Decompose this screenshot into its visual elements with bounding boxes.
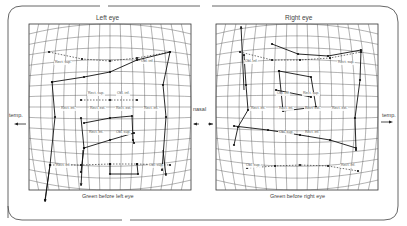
data-point <box>80 99 82 101</box>
data-point <box>355 149 357 151</box>
data-point <box>161 169 163 171</box>
muscle-label: Rect. ext. <box>331 107 348 111</box>
muscle-label: Obl. inf. <box>140 60 154 64</box>
muscle-label: Rect. inf. <box>340 164 356 168</box>
data-point <box>271 43 273 45</box>
data-point <box>136 163 138 165</box>
data-point <box>327 165 329 167</box>
data-point <box>360 49 362 51</box>
data-point <box>355 147 357 149</box>
data-point <box>299 134 301 136</box>
data-point <box>109 173 111 175</box>
data-point <box>329 139 331 141</box>
data-point <box>109 117 111 119</box>
data-point <box>48 51 50 53</box>
right-panel-title: Right eye <box>285 14 312 21</box>
muscle-label: Rect. sup. <box>87 92 105 96</box>
muscle-label: Rect. inf. <box>55 164 71 168</box>
data-point <box>81 58 83 60</box>
muscle-label: Obl. sup. <box>115 131 131 135</box>
muscle-label: Obl. sup. <box>278 131 294 135</box>
temporal-label-right: temp. <box>382 112 396 118</box>
data-point <box>297 53 299 55</box>
muscle-label: Rect. int. <box>60 107 76 111</box>
muscle-label: Rect. int. <box>88 131 104 135</box>
data-point <box>133 132 135 134</box>
muscle-label: Rect. ext. <box>115 107 132 111</box>
data-point <box>133 142 135 144</box>
arrow-icon <box>208 123 213 126</box>
data-point <box>327 55 329 57</box>
arrow-icon <box>14 123 26 126</box>
left-panel-title: Left eye <box>96 14 119 21</box>
data-point <box>80 117 82 119</box>
muscle-label: Rect. sup. <box>302 92 320 96</box>
hess-chart-figure: Left eye Right eye Green before left eye… <box>0 0 407 226</box>
data-point <box>247 109 249 111</box>
data-point <box>109 139 111 141</box>
plotted-field-line <box>52 52 170 170</box>
data-point <box>165 116 167 118</box>
arrow-icon <box>193 123 199 126</box>
data-point <box>357 170 359 172</box>
plotted-field-line <box>234 126 356 148</box>
data-point <box>239 51 241 53</box>
data-point <box>83 76 85 78</box>
data-point <box>169 164 171 166</box>
arrowhead-icon <box>240 26 243 29</box>
data-point <box>162 84 164 86</box>
data-point <box>109 163 111 165</box>
data-point <box>329 57 331 59</box>
muscle-label: Obl. inf. <box>116 92 130 96</box>
data-point <box>233 125 235 127</box>
plotted-field-line <box>84 133 134 148</box>
muscle-label: Rect. ext. <box>304 107 321 111</box>
left-panel-caption: Green before left eye <box>82 193 134 199</box>
data-point <box>109 99 111 101</box>
muscle-label: Obl. sup. <box>148 164 164 168</box>
data-point <box>109 71 111 73</box>
muscle-label: Rect. ext. <box>89 107 106 111</box>
data-point <box>136 59 138 61</box>
data-point <box>132 139 134 141</box>
data-point <box>131 115 133 117</box>
muscle-label: Rect. int. <box>143 107 159 111</box>
muscle-label: Rect. int. <box>278 107 294 111</box>
data-point <box>267 129 269 131</box>
data-point <box>274 165 276 167</box>
temporal-label-left: temp. <box>9 112 23 118</box>
muscle-label: Obl. inf. <box>276 92 290 96</box>
muscle-label: Obl. sup. <box>245 164 261 168</box>
data-point <box>83 147 85 149</box>
data-point <box>299 59 301 61</box>
data-point <box>136 99 138 101</box>
plotted-field-line <box>234 55 248 145</box>
data-point <box>245 84 247 86</box>
data-point <box>310 76 312 78</box>
data-point <box>54 116 56 118</box>
muscle-label: Rect. int. <box>250 107 266 111</box>
data-point <box>354 117 356 119</box>
data-point <box>137 173 139 175</box>
arrow-icon <box>381 121 393 124</box>
data-point <box>109 60 111 62</box>
data-point <box>271 59 273 61</box>
muscle-label: Rect. sup. <box>337 61 355 65</box>
data-point <box>136 57 138 59</box>
hess-chart-svg <box>0 0 407 226</box>
data-point <box>310 96 312 98</box>
right-panel-caption: Green before right eye <box>270 193 325 199</box>
data-point <box>299 164 301 166</box>
nasal-label: nasal <box>193 106 206 112</box>
data-point <box>278 70 280 72</box>
data-point <box>359 79 361 81</box>
data-point <box>169 51 171 53</box>
data-point <box>233 144 235 146</box>
muscle-label: Rect. sup. <box>54 61 72 65</box>
data-point <box>51 81 53 83</box>
data-point <box>243 54 245 56</box>
data-point <box>83 122 85 124</box>
arrowhead-icon <box>80 183 83 186</box>
plotted-field-line <box>45 82 55 200</box>
muscle-label: Obl. inf. <box>244 60 258 64</box>
